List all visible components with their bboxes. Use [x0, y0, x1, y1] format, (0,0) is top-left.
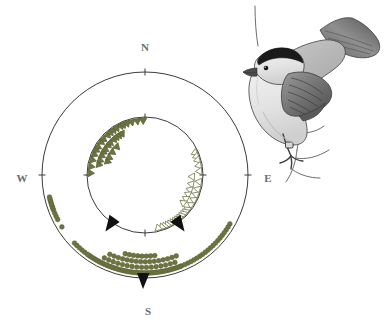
- leg-ring: [286, 142, 294, 148]
- bird-eye: [264, 66, 269, 71]
- blackcap-bird-illustration: [0, 0, 390, 323]
- bird-figure: [243, 6, 380, 182]
- bird-eye-highlight: [265, 67, 266, 68]
- figure-canvas: NESW: [0, 0, 390, 323]
